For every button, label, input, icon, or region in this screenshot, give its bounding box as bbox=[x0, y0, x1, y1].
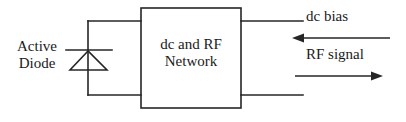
diode-icon bbox=[66, 50, 112, 70]
circuit-diagram: Active Diode dc and RF Network dc bias R… bbox=[0, 0, 406, 122]
active-diode-label: Active Diode bbox=[6, 38, 68, 72]
active-diode-label-line2: Diode bbox=[6, 55, 68, 72]
active-diode-label-line1: Active bbox=[6, 38, 68, 55]
network-block-label-line2: Network bbox=[141, 53, 241, 70]
dc-bias-label: dc bias bbox=[306, 8, 348, 25]
dc-bias-arrow-icon bbox=[292, 34, 390, 43]
rf-signal-label: RF signal bbox=[306, 46, 364, 63]
rf-signal-arrow-icon bbox=[295, 72, 383, 81]
network-block-label-line1: dc and RF bbox=[141, 36, 241, 53]
network-block-label: dc and RF Network bbox=[141, 36, 241, 70]
